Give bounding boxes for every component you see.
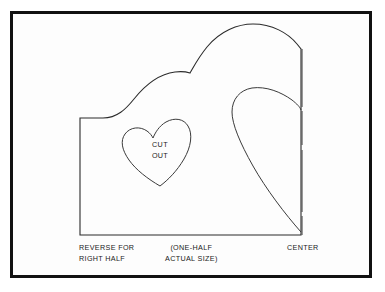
outer-half-heart-outline bbox=[80, 24, 301, 235]
one-half-actual-size-label: (ONE-HALF ACTUAL SIZE) bbox=[165, 243, 218, 264]
inner-half-heart-outline bbox=[232, 88, 301, 232]
center-label: CENTER bbox=[287, 243, 319, 254]
reverse-for-right-half-label: REVERSE FOR RIGHT HALF bbox=[79, 243, 134, 264]
cut-out-label: CUT OUT bbox=[138, 140, 182, 161]
pattern-diagram-page: CUT OUT REVERSE FOR RIGHT HALF (ONE-HALF… bbox=[0, 0, 385, 292]
